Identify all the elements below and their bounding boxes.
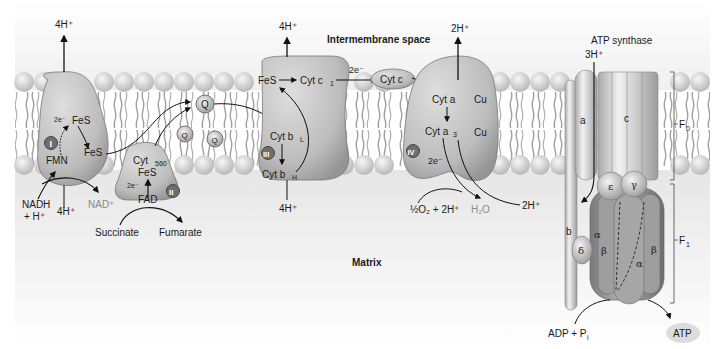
complex-i-fmn: FMN bbox=[46, 155, 68, 166]
adp-label: ADP + P bbox=[548, 328, 587, 339]
subunit-beta-right: β bbox=[651, 244, 657, 255]
subunit-b-label: b bbox=[566, 226, 572, 237]
atp-label: ATP bbox=[673, 328, 692, 339]
subunit-alpha-left: α bbox=[594, 229, 601, 240]
complex-ii-fad: FAD bbox=[138, 194, 157, 205]
subunit-beta-left: β bbox=[601, 245, 607, 256]
complex-ii-fes: FeS bbox=[138, 167, 157, 178]
nad-label: NAD⁺ bbox=[88, 199, 114, 210]
complex-iv-electrons: 2e⁻ bbox=[428, 156, 443, 166]
etc-diagram: Intermembrane space Matrix 4H⁺ 2e⁻ FeS F… bbox=[0, 0, 722, 349]
complex-iii-cyt-bh-sub: H bbox=[292, 174, 297, 181]
atp-synthase-proton: 3H⁺ bbox=[585, 49, 603, 60]
complex-i-fes-top: FeS bbox=[72, 115, 91, 126]
svg-text:IV: IV bbox=[408, 148, 415, 157]
f0-label: F bbox=[679, 119, 685, 130]
matrix-label: Matrix bbox=[352, 257, 382, 268]
complex-iii-cyt-c1: Cyt c bbox=[300, 75, 323, 86]
f0-sub: 0 bbox=[686, 125, 690, 132]
complex-iii-proton-out: 4H⁺ bbox=[279, 21, 297, 32]
complex-iv-cu-top: Cu bbox=[474, 94, 487, 105]
subunit-alpha-center: α bbox=[636, 258, 643, 269]
water-label: H₂O bbox=[471, 204, 490, 215]
nadh-h-label: + H⁺ bbox=[24, 211, 45, 222]
complex-iv-cyt-a: Cyt a bbox=[432, 94, 456, 105]
oxygen-label: ½O₂ + 2H⁺ bbox=[410, 204, 459, 215]
complex-iii-cyt-bl-sub: L bbox=[300, 136, 304, 143]
complex-iv-proton-in: 2H⁺ bbox=[522, 200, 540, 211]
subunit-c-label: c bbox=[624, 113, 629, 124]
svg-text:δ: δ bbox=[578, 245, 584, 256]
complex-iii-fes: FeS bbox=[258, 75, 277, 86]
complex-iii-proton-in: 4H⁺ bbox=[279, 203, 297, 214]
f1-label: F bbox=[679, 235, 685, 246]
subunit-c-ring bbox=[598, 72, 658, 180]
complex-i-proton-out: 4H⁺ bbox=[55, 19, 73, 30]
complex-ii-cyt: Cyt bbox=[133, 155, 148, 166]
complex-iv-cu-bottom: Cu bbox=[474, 127, 487, 138]
intermembrane-space-label: Intermembrane space bbox=[327, 34, 431, 45]
complex-iii-cyt-c1-sub: 1 bbox=[330, 80, 334, 87]
svg-text:Q: Q bbox=[212, 136, 218, 145]
f1-sub: 1 bbox=[686, 241, 690, 248]
svg-text:γ: γ bbox=[631, 179, 637, 190]
complex-iv-proton-out: 2H⁺ bbox=[451, 23, 469, 34]
svg-text:ε: ε bbox=[608, 181, 613, 192]
svg-text:III: III bbox=[263, 150, 269, 159]
complex-i-fes-bottom: FeS bbox=[84, 147, 103, 158]
complex-i-proton-in: 4H⁺ bbox=[57, 206, 75, 217]
svg-text:Q: Q bbox=[182, 131, 188, 140]
subunit-a-label: a bbox=[580, 115, 586, 126]
fumarate-label: Fumarate bbox=[159, 227, 202, 238]
complex-iii-cyt-bh: Cyt b bbox=[262, 169, 286, 180]
complex-ii-cyt-sub: 560 bbox=[155, 160, 167, 167]
complex-iii-cyt-bl: Cyt b bbox=[270, 131, 294, 142]
svg-text:Q: Q bbox=[201, 99, 209, 110]
succinate-label: Succinate bbox=[95, 227, 139, 238]
cyt-c-label: Cyt c bbox=[380, 74, 403, 85]
svg-text:II: II bbox=[169, 188, 173, 197]
nadh-label: NADH bbox=[22, 199, 50, 210]
complex-iv-cyt-a3-sub: 3 bbox=[453, 131, 457, 138]
complex-ii-electrons: 2e⁻ bbox=[127, 182, 139, 189]
complex-i-electrons: 2e⁻ bbox=[54, 116, 66, 123]
complex-iv-cyt-a3: Cyt a bbox=[425, 126, 449, 137]
atp-synthase-title: ATP synthase bbox=[591, 35, 653, 46]
svg-text:I: I bbox=[50, 139, 53, 149]
cyt-c-electrons: 2e⁻ bbox=[349, 65, 364, 75]
